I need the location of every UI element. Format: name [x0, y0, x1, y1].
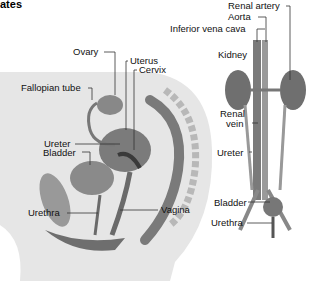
vena-cava-shape — [253, 40, 261, 200]
label-bladder-urinary: Bladder — [214, 197, 247, 208]
label-urethra-urinary: Urethra — [211, 217, 243, 228]
label-ureter-urinary: Ureter — [217, 147, 243, 158]
uterus-shape — [99, 128, 151, 172]
label-inferior-vena-cava: Inferior vena cava — [170, 23, 246, 34]
label-urethra-female: Urethra — [28, 207, 60, 218]
label-renal-artery: Renal artery — [228, 0, 280, 11]
label-vagina: Vagina — [161, 204, 190, 215]
label-fallopian-tube: Fallopian tube — [21, 82, 81, 93]
label-ovary: Ovary — [73, 46, 98, 57]
left-kidney — [225, 70, 251, 110]
label-bladder-female: Bladder — [43, 147, 76, 158]
label-aorta: Aorta — [228, 11, 251, 22]
label-cervix: Cervix — [139, 64, 166, 75]
label-renal-vein-line2: vein — [226, 118, 243, 129]
right-ureter — [280, 105, 285, 190]
right-kidney — [280, 70, 306, 110]
left-ureter — [245, 105, 252, 190]
bladder-shape — [70, 161, 114, 195]
ovary-shape — [97, 95, 123, 115]
bladder-urinary — [263, 197, 283, 217]
label-kidney: Kidney — [218, 49, 247, 60]
aorta-shape — [262, 40, 268, 200]
